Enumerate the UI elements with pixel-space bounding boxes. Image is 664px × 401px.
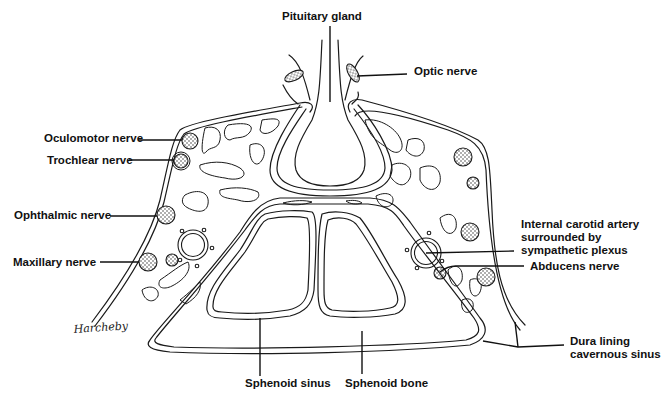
oculomotor-nerve-left: [182, 133, 198, 149]
trochlear-nerve-left: [174, 154, 188, 168]
internal-carotid-left: [178, 228, 214, 268]
label-optic-nerve: Optic nerve: [414, 65, 477, 77]
artist-signature: Harcheby: [72, 319, 129, 336]
right-optic-nerve: [344, 56, 363, 104]
left-optic-nerve: [283, 55, 310, 104]
maxillary-nerve-right: [477, 268, 495, 286]
sella-turcica: [270, 105, 392, 196]
sphenoid-sinus-left: [207, 211, 316, 320]
sphenoid-sinus-right: [318, 212, 405, 317]
label-internal-carotid-2: surrounded by: [521, 231, 602, 243]
label-oculomotor-nerve: Oculomotor nerve: [44, 132, 143, 144]
label-maxillary-nerve: Maxillary nerve: [13, 256, 96, 268]
oculomotor-nerve-right: [454, 148, 472, 166]
right-dura-wall: [348, 100, 525, 330]
trochlear-nerve-right: [467, 177, 479, 189]
abducens-nerve-left: [166, 254, 178, 266]
label-internal-carotid-3: sympathetic plexus: [521, 244, 628, 256]
internal-carotid-right: [405, 231, 444, 270]
label-abducens-nerve: Abducens nerve: [530, 260, 619, 272]
ophthalmic-nerve-right: [461, 223, 479, 241]
label-trochlear-nerve: Trochlear nerve: [47, 154, 133, 166]
label-sphenoid-sinus: Sphenoid sinus: [245, 377, 331, 389]
label-pituitary-gland: Pituitary gland: [282, 10, 362, 22]
leader-lines: [100, 26, 564, 376]
label-dura-1: Dura lining: [570, 335, 630, 347]
cavernous-sinus-diagram: Pituitary gland Optic nerve Oculomotor n…: [0, 0, 664, 401]
label-dura-2: cavernous sinus: [570, 348, 661, 360]
maxillary-nerve-left: [139, 253, 157, 271]
label-internal-carotid-1: Internal carotid artery: [521, 218, 640, 230]
ophthalmic-nerve-left: [157, 206, 175, 224]
label-sphenoid-bone: Sphenoid bone: [345, 377, 428, 389]
label-ophthalmic-nerve: Ophthalmic nerve: [14, 209, 111, 221]
